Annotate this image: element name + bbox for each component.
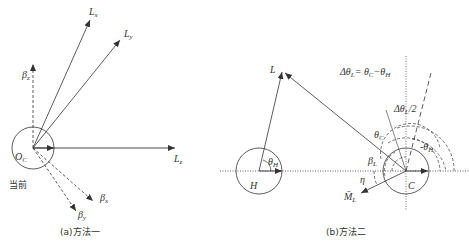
label-m-l: M̄L (343, 191, 356, 204)
label-eta: η (360, 174, 365, 185)
label-beta-y: βy (77, 209, 87, 222)
label-h: H (249, 180, 258, 191)
label-theta-h-right: -θH (420, 141, 434, 154)
label-current: 当前 (9, 179, 27, 190)
label-beta-l: βL (367, 155, 377, 168)
half-angle-ray (386, 110, 406, 171)
arc-mid (388, 138, 440, 171)
dashed-ray (406, 73, 431, 171)
label-lx: Lx (88, 6, 99, 19)
label-l: L (269, 64, 276, 75)
caption-a: (a)方法一 (60, 226, 100, 237)
caption-b: (b)方法二 (326, 226, 366, 237)
vector-beta-y (33, 148, 76, 211)
diagram-a: Lx Ly Lz βz βx βy OC 当前 (a)方法一 (9, 6, 183, 237)
diagram-canvas: Lx Ly Lz βz βx βy OC 当前 (a)方法一 (0, 0, 469, 244)
diagram-b: L H C θH θC βL η M̄L ΔθL/2 -θH ΔθL= θC−θ… (220, 56, 469, 237)
label-beta-x: βx (99, 192, 109, 205)
arc-eta (374, 171, 377, 185)
equation: ΔθL= θC−θH (339, 66, 391, 79)
label-lz: Lz (173, 153, 183, 166)
label-origin: OC (15, 151, 27, 164)
label-ly: Ly (123, 28, 134, 41)
label-theta-h-left: θH (268, 156, 279, 169)
arc-beta-l (384, 152, 395, 176)
vector-lx (33, 20, 90, 148)
vector-c-to-l (285, 73, 406, 171)
vector-beta-x (33, 148, 93, 201)
arc-theta-h-right (412, 139, 446, 171)
label-delta-theta-half: ΔθL/2 (393, 103, 416, 116)
label-c: C (408, 180, 415, 191)
label-beta-z: βz (21, 69, 30, 82)
vector-ly (33, 40, 120, 148)
label-theta-c: θC (374, 129, 384, 142)
